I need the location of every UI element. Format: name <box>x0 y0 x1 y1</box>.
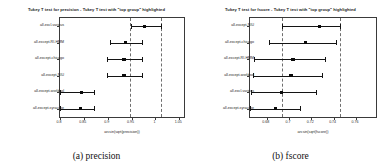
confidence-interval-cap-lower <box>269 40 270 45</box>
confidence-interval-bar <box>254 59 324 60</box>
reference-line-2 <box>340 18 341 117</box>
confidence-interval-bar <box>60 109 94 110</box>
data-point-marker <box>274 107 277 110</box>
chart-title-precision: Tukey T test for precision - Tukey T tes… <box>0 7 193 13</box>
plot-frame-precision <box>59 17 185 118</box>
confidence-interval-cap-lower <box>131 24 132 29</box>
confidence-interval-cap-lower <box>110 40 111 45</box>
panel-fscore: Tukey T test for fscore - Tukey T test w… <box>194 0 387 167</box>
data-point-marker <box>291 58 294 61</box>
x-axis-title-precision: arcsin(sqrt(precision)) <box>59 130 185 134</box>
x-axis-tick-label: 0.8 <box>48 120 70 124</box>
data-point-marker <box>122 74 125 77</box>
x-axis-tick-label: 0.72 <box>299 120 321 124</box>
x-axis-title-fscore: arcsin(sqrt(fscore)) <box>249 130 377 134</box>
y-axis-label-all-except-chicago: all-except-chicago <box>6 56 64 60</box>
confidence-interval-cap-lower <box>107 73 108 78</box>
confidence-interval-cap-upper <box>300 106 301 111</box>
confidence-interval-cap-upper <box>94 90 95 95</box>
x-axis-tick-label: 0.68 <box>255 120 277 124</box>
data-point-marker <box>122 58 125 61</box>
confidence-interval-cap-upper <box>161 24 162 29</box>
figure-tukey-tests: Tukey T test for precision - Tukey T tes… <box>0 0 387 167</box>
y-axis-label-all-except-niu: all-except-NIU <box>6 73 64 77</box>
data-point-marker <box>79 107 82 110</box>
confidence-interval-cap-upper <box>142 73 143 78</box>
x-axis-tick-label: 1.05 <box>167 120 189 124</box>
x-axis-tick-label: 1 <box>143 120 165 124</box>
y-axis-label-all-excl-various: all-excl-various <box>196 89 254 93</box>
data-point-marker <box>289 74 292 77</box>
panel-precision: Tukey T test for precision - Tukey T tes… <box>0 0 193 167</box>
y-axis-label-all-except-syracuse: all-except-syracuse <box>196 106 254 110</box>
data-point-marker <box>280 91 283 94</box>
x-axis-tick-label: 0.7 <box>277 120 299 124</box>
x-axis-tick-label: 0.9 <box>96 120 118 124</box>
confidence-interval-bar <box>60 92 94 93</box>
y-axis-label-all-except-ri-hmm: all-except-RI-HMM <box>6 40 64 44</box>
confidence-interval-cap-upper <box>336 40 337 45</box>
chart-title-fscore: Tukey T test for fscore - Tukey T test w… <box>194 7 387 13</box>
confidence-interval-cap-upper <box>325 57 326 62</box>
plot-area-precision <box>60 18 184 117</box>
confidence-interval-cap-upper <box>142 57 143 62</box>
plot-area-fscore <box>250 18 376 117</box>
confidence-interval-cap-upper <box>322 73 323 78</box>
y-axis-label-all-except-ri-hmm: all-except-RI-HMM <box>196 56 254 60</box>
x-axis-tick-label: 0.85 <box>72 120 94 124</box>
reference-line-1 <box>282 18 283 117</box>
data-point-marker <box>124 41 127 44</box>
subcaption-precision: (a) precision <box>0 151 193 161</box>
data-point-marker <box>318 25 321 28</box>
subcaption-fscore: (b) fscore <box>194 151 387 161</box>
data-point-marker <box>304 41 307 44</box>
x-axis-tick-label: 0.76 <box>344 120 366 124</box>
confidence-interval-cap-lower <box>254 57 255 62</box>
y-axis-label-all-except-worldsol: all-except-worldsol <box>196 73 254 77</box>
confidence-interval-cap-upper <box>340 24 341 29</box>
confidence-interval-bar <box>282 26 340 27</box>
confidence-interval-cap-upper <box>316 90 317 95</box>
plot-frame-fscore <box>249 17 377 118</box>
data-point-marker <box>143 25 146 28</box>
confidence-interval-bar <box>269 43 336 44</box>
y-axis-label-all-except-syracuse: all-except-syracuse <box>6 106 64 110</box>
y-axis-label-all-excl-various: all-excl-various <box>6 23 64 27</box>
x-axis-tick-label: 0.95 <box>120 120 142 124</box>
data-point-marker <box>80 91 83 94</box>
confidence-interval-bar <box>253 76 322 77</box>
x-axis-tick-label: 0.74 <box>322 120 344 124</box>
confidence-interval-cap-lower <box>107 57 108 62</box>
confidence-interval-cap-upper <box>94 106 95 111</box>
confidence-interval-bar <box>131 26 161 27</box>
reference-line-2 <box>161 18 162 117</box>
confidence-interval-cap-upper <box>142 40 143 45</box>
y-axis-label-all-except-worldsol: all-except-worldsol <box>6 89 64 93</box>
y-axis-label-all-except-chicago: all-except-chicago <box>196 40 254 44</box>
confidence-interval-cap-lower <box>282 24 283 29</box>
reference-line-1 <box>130 18 131 117</box>
y-axis-label-all-except-niu: all-except-NIU <box>196 23 254 27</box>
